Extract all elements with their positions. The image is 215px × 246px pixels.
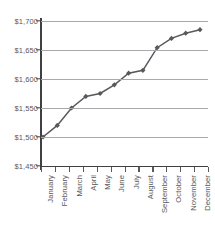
line-chart: $1,700$1,650$1,600$1,550$1,500$1,450 Jan… <box>0 0 215 246</box>
x-axis-tick-label: May <box>103 175 112 190</box>
x-axis-tick-label: August <box>146 175 155 199</box>
x-axis-tick <box>41 167 42 172</box>
x-axis-tick-label: February <box>60 175 69 206</box>
x-axis-tick <box>166 167 167 172</box>
x-axis-tick <box>125 167 126 172</box>
x-axis-tick-label: April <box>89 175 98 191</box>
x-axis-tick-label: January <box>46 175 55 203</box>
y-axis-tick <box>36 136 41 137</box>
x-axis-tick-label: October <box>174 175 183 203</box>
x-axis-tick-label: June <box>117 175 126 192</box>
y-axis-tick <box>36 20 41 21</box>
x-axis-tick <box>152 167 153 172</box>
x-axis-tick <box>194 167 195 172</box>
x-axis: JanuaryFebruaryMarchAprilMayJuneJulyAugu… <box>0 0 215 246</box>
x-axis-tick <box>55 167 56 172</box>
x-axis-tick <box>138 167 139 172</box>
x-axis-tick <box>69 167 70 172</box>
x-axis-tick-label: July <box>132 175 141 189</box>
y-axis-tick <box>36 49 41 50</box>
x-axis-tick <box>111 167 112 172</box>
y-axis-tick <box>36 78 41 79</box>
x-axis-tick <box>83 167 84 172</box>
x-axis-tick <box>208 167 209 172</box>
y-axis-tick <box>36 107 41 108</box>
x-axis-tick <box>97 167 98 172</box>
x-axis-tick-label: November <box>189 175 198 211</box>
x-axis-tick-label: March <box>75 175 84 197</box>
x-axis-tick-label: September <box>160 175 169 213</box>
x-axis-tick-label: December <box>203 175 212 211</box>
x-axis-tick <box>180 167 181 172</box>
